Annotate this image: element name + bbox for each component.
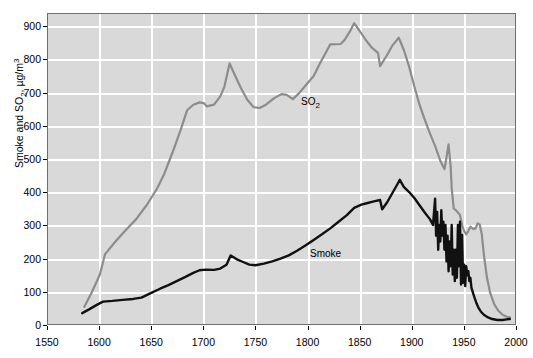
x-tick-label: 1800 [296,336,319,348]
so2-label-text: SO [301,96,315,107]
x-tick-label: 2000 [504,336,527,348]
y-tick-label: 800 [23,54,41,64]
x-tick-mark [308,326,309,330]
series-line-so2 [84,23,509,317]
x-tick-mark [99,326,100,330]
x-tick-label: 1550 [35,336,58,348]
x-tick-mark [516,326,517,330]
x-tick-label: 1700 [192,336,215,348]
x-tick-mark [151,326,152,330]
y-tick-label: 900 [23,21,41,31]
x-tick-label: 1900 [400,336,423,348]
so2-series-label: SO2 [301,96,320,110]
y-tick-label: 300 [23,220,41,230]
x-tick-label: 1750 [244,336,267,348]
x-tick-mark [360,326,361,330]
plot-area: SO2 Smoke [47,13,516,325]
so2-label-sub: 2 [315,101,319,110]
y-tick-label: 400 [23,187,41,197]
series-line-smoke [82,180,510,320]
smoke-series-label: Smoke [310,248,341,259]
y-axis-ticks: 0100200300400500600700800900 [0,0,47,340]
y-tick-label: 200 [23,254,41,264]
x-tick-label: 1600 [87,336,110,348]
x-tick-mark [412,326,413,330]
series-layer [48,14,515,324]
x-tick-mark [47,326,48,330]
x-tick-mark [255,326,256,330]
y-tick-label: 700 [23,88,41,98]
x-axis-ticks: 1550160016501700175018001850190019502000 [0,326,533,358]
x-tick-label: 1950 [452,336,475,348]
x-tick-mark [464,326,465,330]
y-tick-label: 600 [23,121,41,131]
y-tick-label: 500 [23,154,41,164]
chart-root: Smoke and SO2, µg/m3 0100200300400500600… [0,0,533,358]
x-tick-label: 1650 [140,336,163,348]
x-tick-label: 1850 [348,336,371,348]
x-tick-mark [203,326,204,330]
y-tick-label: 100 [23,287,41,297]
